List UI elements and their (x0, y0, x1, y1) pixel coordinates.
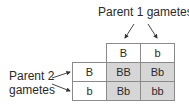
row-header-2: b (72, 81, 107, 101)
arrow-icon (52, 84, 70, 91)
offspring-cell: Bb (140, 62, 175, 82)
offspring-cell: bb (140, 81, 175, 101)
arrow-icon (148, 24, 157, 38)
offspring-cell: Bb (106, 81, 141, 101)
col-header-2: b (140, 43, 175, 63)
row-header-1: B (72, 62, 107, 82)
offspring-cell: BB (106, 62, 141, 82)
arrow-icon (125, 24, 134, 38)
col-header-1: B (106, 43, 141, 63)
arrow-icon (52, 72, 70, 78)
